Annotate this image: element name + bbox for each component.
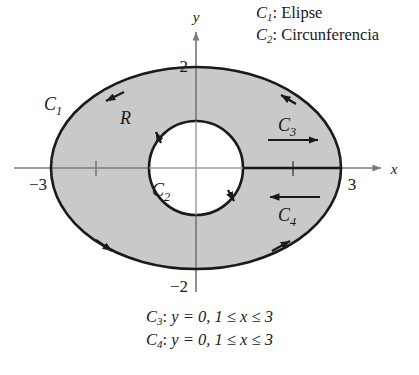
caption-c4-symbol: C: [146, 330, 157, 349]
legend-item-c1: C1: Elipse: [256, 2, 379, 24]
caption-c3-symbol: C: [146, 307, 157, 326]
legend-c1-symbol: C: [256, 3, 267, 22]
y-axis-label: y: [191, 9, 200, 25]
legend-c2-text: Circunferencia: [281, 25, 379, 44]
y-tick-label-2: 2: [180, 57, 189, 76]
caption-c3-range: 1 ≤ x ≤ 3: [214, 307, 272, 326]
caption-c3-equation: y = 0,: [171, 307, 210, 326]
caption: C3: y = 0, 1 ≤ x ≤ 3 C4: y = 0, 1 ≤ x ≤ …: [0, 306, 419, 352]
region-label-R: R: [119, 108, 131, 128]
x-tick-label-3: 3: [348, 175, 357, 194]
x-tick-label-minus3: −3: [29, 175, 47, 194]
y-tick-label-minus2: −2: [170, 277, 188, 296]
caption-c4-range: 1 ≤ x ≤ 3: [214, 330, 272, 349]
caption-c3-separator: :: [163, 307, 168, 326]
legend-c1-separator: :: [272, 3, 277, 22]
legend-c1-text: Elipse: [281, 3, 322, 22]
curve-label-c1: C1: [44, 94, 62, 118]
legend-c2-symbol: C: [256, 25, 267, 44]
legend-item-c2: C2: Circunferencia: [256, 24, 379, 46]
legend: C1: Elipse C2: Circunferencia: [256, 2, 379, 47]
caption-line-c3: C3: y = 0, 1 ≤ x ≤ 3: [0, 306, 419, 329]
figure-root: y x 2 −2 −3 3 R C1 C2 C3 C4 C1: Elipse C…: [0, 0, 419, 375]
x-axis-label: x: [390, 161, 398, 177]
caption-c4-separator: :: [163, 330, 168, 349]
legend-c2-separator: :: [272, 25, 277, 44]
caption-line-c4: C4: y = 0, 1 ≤ x ≤ 3: [0, 329, 419, 352]
caption-c4-equation: y = 0,: [171, 330, 210, 349]
